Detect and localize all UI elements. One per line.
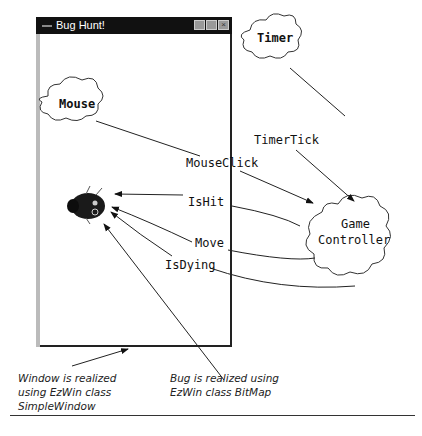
bug-caption: Bug is realized using EzWin class BitMap (170, 371, 279, 399)
controller-label-line1: Game (341, 217, 370, 231)
bug-icon (67, 186, 105, 224)
timertick-edge-label: TimerTick (254, 133, 319, 147)
mouse-node-label: Mouse (59, 97, 95, 111)
ishit-edge-label: IsHit (188, 195, 224, 209)
move-edge-label: Move (195, 236, 224, 250)
timer-node-label: Timer (257, 31, 293, 45)
window-caption: Window is realized using EzWin class Sim… (18, 371, 116, 413)
bottom-divider (10, 415, 415, 416)
mouseclick-edge-label: MouseClick (186, 156, 258, 170)
controller-label-line2: Controller (318, 233, 390, 247)
isdying-edge-label: IsDying (165, 258, 216, 272)
